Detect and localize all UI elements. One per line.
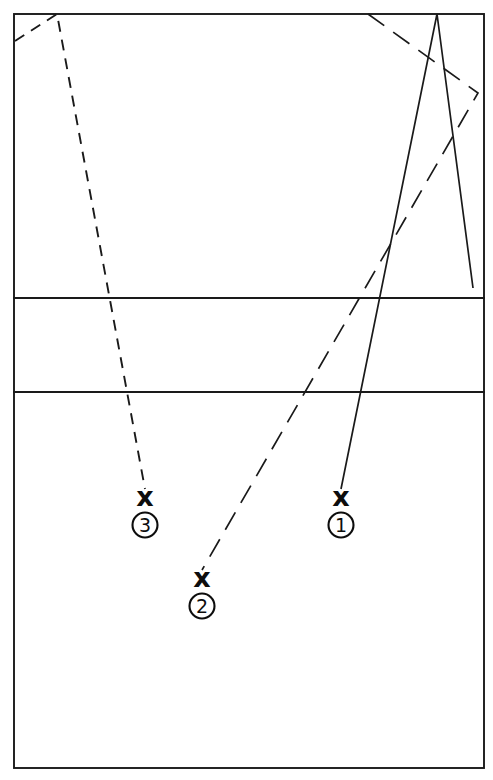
field-diagram-canvas: x 1 x 2 x 3 [0,0,493,780]
marker-number-1: 1 [335,514,347,536]
marker-x-glyph-3: x [136,481,153,512]
marker-number-2: 2 [196,595,208,617]
marker-x-glyph-2: x [193,562,210,593]
diagram-root: x 1 x 2 x 3 [0,0,493,780]
marker-x-glyph-1: x [332,481,349,512]
marker-number-3: 3 [139,514,151,536]
